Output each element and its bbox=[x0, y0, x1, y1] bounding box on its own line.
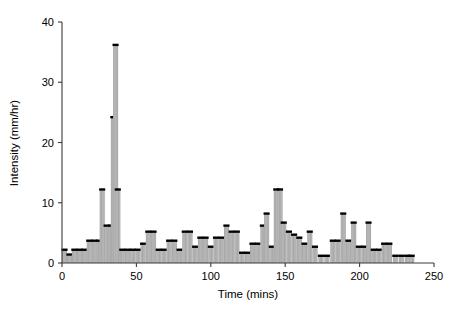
x-tick-label: 0 bbox=[59, 270, 65, 282]
bar bbox=[150, 230, 156, 263]
bar bbox=[291, 233, 297, 263]
bar bbox=[386, 243, 392, 263]
x-tick-label: 100 bbox=[202, 270, 220, 282]
bar bbox=[161, 249, 167, 263]
bar bbox=[371, 249, 377, 263]
bar bbox=[324, 255, 330, 263]
y-tick-label: 20 bbox=[42, 137, 54, 149]
bar bbox=[218, 237, 224, 264]
bar bbox=[264, 212, 270, 263]
bar bbox=[286, 230, 292, 263]
bar bbox=[351, 221, 357, 263]
bar bbox=[176, 249, 182, 263]
chart-canvas: 010203040050100150200250 Time (mins) Int… bbox=[0, 0, 457, 310]
bar bbox=[365, 221, 371, 263]
bar bbox=[376, 249, 382, 263]
bar bbox=[340, 212, 346, 263]
bar bbox=[203, 237, 209, 264]
bar bbox=[208, 246, 214, 263]
bar bbox=[318, 255, 324, 263]
bar bbox=[213, 237, 219, 264]
x-tick-label: 200 bbox=[350, 270, 368, 282]
bar bbox=[255, 243, 261, 263]
bar bbox=[135, 249, 141, 263]
bar bbox=[66, 253, 72, 263]
bar bbox=[345, 240, 351, 263]
y-axis-title: Intensity (mm/hr) bbox=[8, 100, 20, 186]
x-tick-label: 150 bbox=[276, 270, 294, 282]
bar bbox=[182, 230, 188, 263]
bar bbox=[187, 230, 193, 263]
bar bbox=[244, 252, 250, 263]
bar bbox=[234, 230, 240, 263]
bar bbox=[249, 243, 255, 263]
y-tick-label: 0 bbox=[48, 257, 54, 269]
bar bbox=[156, 249, 162, 263]
bars-layer bbox=[61, 44, 414, 263]
bar bbox=[239, 252, 245, 263]
bar bbox=[91, 240, 97, 263]
x-tick-label: 250 bbox=[425, 270, 443, 282]
bar bbox=[81, 249, 87, 263]
bar bbox=[145, 230, 151, 263]
bar bbox=[86, 240, 92, 263]
bar bbox=[229, 230, 235, 263]
bar bbox=[192, 246, 198, 263]
bar bbox=[398, 255, 404, 263]
bar bbox=[130, 249, 136, 263]
bar bbox=[307, 230, 313, 263]
y-tick-label: 40 bbox=[42, 16, 54, 28]
bar bbox=[124, 249, 130, 263]
x-axis-title: Time (mins) bbox=[218, 288, 278, 300]
bar bbox=[301, 243, 307, 263]
bar bbox=[166, 240, 172, 263]
bar bbox=[381, 243, 387, 263]
bar bbox=[281, 221, 287, 263]
y-tick-label: 30 bbox=[42, 76, 54, 88]
bar bbox=[119, 249, 125, 263]
bar bbox=[296, 237, 302, 264]
bar bbox=[330, 240, 336, 263]
bar bbox=[356, 246, 362, 263]
bar bbox=[335, 240, 341, 263]
y-tick-label: 10 bbox=[42, 197, 54, 209]
rainfall-intensity-chart: 010203040050100150200250 Time (mins) Int… bbox=[0, 0, 457, 310]
bar bbox=[140, 243, 146, 263]
x-tick-label: 50 bbox=[130, 270, 142, 282]
bar bbox=[409, 255, 415, 263]
bar bbox=[197, 237, 203, 264]
bar bbox=[312, 246, 318, 263]
bar bbox=[171, 240, 177, 263]
bar bbox=[392, 255, 398, 263]
bar bbox=[223, 224, 229, 263]
